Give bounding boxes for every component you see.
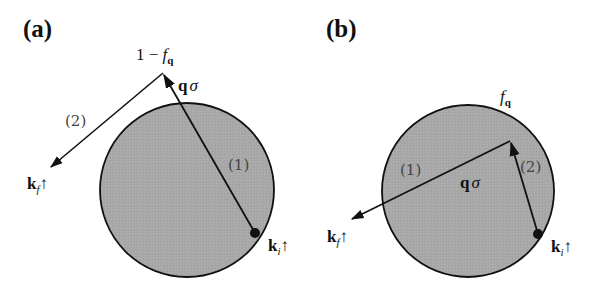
panel-a-label: (a)	[23, 15, 52, 43]
kf-label-a: kf↑	[27, 174, 48, 195]
step-2-label-a: (2)	[65, 112, 86, 130]
ki-label-b: ki↑	[551, 237, 572, 258]
q-sigma-label-a: qσ	[178, 76, 198, 95]
step-2-label-b: (2)	[520, 158, 541, 176]
ki-dot-b	[533, 229, 543, 239]
scattering-diagram: (a) 1 − fq qσ (1) (2) kf↑ ki↑ (b) fq	[0, 0, 602, 292]
panel-b-label: (b)	[326, 15, 357, 43]
f-q-label-b: fq	[500, 87, 512, 108]
step-1-label-a: (1)	[228, 156, 249, 174]
panel-a: (a) 1 − fq qσ (1) (2) kf↑ ki↑	[23, 15, 289, 277]
ki-dot-a	[250, 228, 260, 238]
panel-b: (b) fq qσ (1) (2) kf↑ ki↑	[326, 15, 572, 277]
fermi-sphere-a	[100, 103, 274, 277]
apex-label-a: 1 − fq	[136, 45, 174, 66]
ki-label-a: ki↑	[268, 236, 289, 257]
kf-label-b: kf↑	[327, 227, 348, 248]
step-1-label-b: (1)	[400, 161, 421, 179]
